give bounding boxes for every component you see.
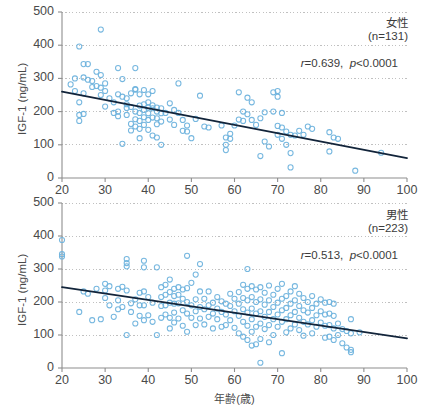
sample-size-female: (n=131): [368, 30, 408, 42]
y-tick-label: 100: [20, 327, 54, 341]
x-tick-label: 20: [45, 373, 79, 387]
scatter-points-female: [68, 27, 384, 173]
stats-annotation-female: rr=0.639=0.639, p<0.0001: [301, 57, 398, 69]
y-tick-label: 400: [20, 37, 54, 51]
y-tick-label: 300: [20, 261, 54, 275]
x-tick-label: 70: [261, 373, 295, 387]
y-tick-label: 500: [20, 4, 54, 18]
panel-title-male: 男性: [368, 206, 408, 222]
stats-annotation-male: r=0.513, p<0.0001: [301, 249, 398, 261]
panel-male: IGF-1 (ng/mL) 男性 (n=223) r=0.513, p<0.00…: [0, 192, 426, 403]
y-tick-label: 300: [20, 70, 54, 84]
x-tick-label: 60: [218, 373, 252, 387]
x-tick-label: 30: [88, 373, 122, 387]
x-axis-label: 年齢(歳): [175, 390, 295, 406]
y-tick-label: 400: [20, 228, 54, 242]
y-tick-label: 500: [20, 195, 54, 209]
x-tick-label: 80: [304, 373, 338, 387]
sample-size-male: (n=223): [368, 222, 408, 234]
y-tick-label: 0: [20, 170, 54, 184]
y-tick-label: 200: [20, 294, 54, 308]
y-tick-label: 200: [20, 104, 54, 118]
regression-line-female: [62, 92, 407, 158]
x-tick-label: 50: [174, 373, 208, 387]
y-tick-label: 100: [20, 137, 54, 151]
y-tick-label: 0: [20, 360, 54, 374]
panel-title-female: 女性: [368, 14, 408, 30]
x-tick-label: 90: [347, 373, 381, 387]
x-tick-label: 40: [131, 373, 165, 387]
panel-female: IGF-1 (ng/mL) 女性 (n=131) rr=0.639=0.639,…: [0, 0, 426, 200]
x-tick-label: 100: [390, 373, 424, 387]
scatter-plot-female: [0, 0, 426, 200]
scatter-plot-male: [0, 192, 426, 403]
